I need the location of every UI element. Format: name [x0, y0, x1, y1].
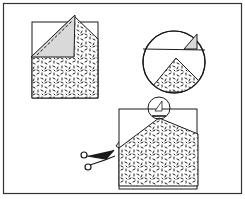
scissors-icon — [81, 150, 115, 170]
origami-diagram — [0, 0, 245, 199]
step-fold — [31, 15, 98, 98]
step-cut — [81, 97, 198, 189]
step-detail — [143, 31, 210, 93]
speckled-paper-cut — [119, 118, 198, 186]
fold-flap — [31, 15, 75, 57]
